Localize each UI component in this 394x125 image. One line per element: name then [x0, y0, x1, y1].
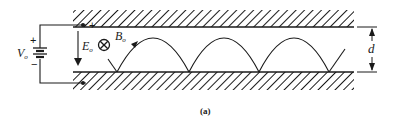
- battery-plus: +: [30, 34, 36, 46]
- bottom-plate: [73, 72, 354, 90]
- battery-icon: [33, 48, 47, 57]
- gap-arrow-down-icon: [369, 63, 375, 71]
- bottom-contact-dot: [81, 81, 85, 85]
- bfield-label: Bo: [115, 29, 126, 44]
- gap-label: d: [368, 41, 375, 56]
- top-plate-plus: +: [89, 19, 95, 31]
- efield-label: Eo: [81, 39, 93, 54]
- figure-caption: (a): [200, 106, 211, 116]
- crossed-field-diagram: + + − Vo Eo Bo d: [0, 0, 394, 125]
- gap-arrow-up-icon: [369, 28, 375, 36]
- voltage-label: Vo: [17, 46, 28, 61]
- bfield-into-page-icon: [99, 40, 110, 51]
- cycloid-trajectory: [108, 38, 345, 72]
- battery-minus: −: [31, 58, 37, 70]
- top-contact-dot: [81, 23, 85, 27]
- top-plate: [73, 10, 354, 27]
